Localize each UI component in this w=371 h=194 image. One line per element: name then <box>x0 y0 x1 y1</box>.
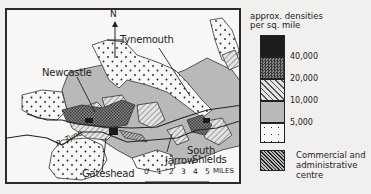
density-area-over-40000-b <box>109 128 118 135</box>
legend-swatch-over-40000 <box>260 35 285 57</box>
legend-value-10000: 10,000 <box>290 96 318 105</box>
legend-swatch-10000-20000 <box>260 79 285 101</box>
density-area-under-5000-west <box>22 90 67 120</box>
density-area-over-40000-a <box>85 118 93 123</box>
legend-value-40000: 40,000 <box>290 52 318 61</box>
legend-value-5000: 5,000 <box>290 118 313 127</box>
legend-swatch-commercial <box>260 150 285 171</box>
density-map-figure: N Tynemouth Newcastle South Shields Jarr… <box>0 0 371 194</box>
legend-title-line2: per sq. mile <box>250 21 323 30</box>
label-shields: Shields <box>192 154 227 165</box>
legend: approx. densities per sq. mile 40,000 20… <box>250 12 370 187</box>
legend-value-20000: 20,000 <box>290 74 318 83</box>
legend-swatch-under-5000 <box>260 123 285 143</box>
legend-commercial-line2: administrative centre <box>296 160 371 180</box>
label-jarrow: Jarrow <box>165 155 195 166</box>
scale-unit: MILES <box>213 167 234 175</box>
scale-tick-4: 4 <box>193 167 198 176</box>
legend-swatch-5000-10000 <box>260 101 285 123</box>
legend-title: approx. densities per sq. mile <box>250 12 323 30</box>
scale-tick-2: 2 <box>169 167 174 176</box>
label-newcastle: Newcastle <box>42 67 92 78</box>
scale-tick-1: 1 <box>157 167 162 176</box>
legend-commercial-line1: Commercial and <box>296 150 371 160</box>
map-frame: N Tynemouth Newcastle South Shields Jarr… <box>5 8 241 184</box>
north-arrow-icon <box>112 21 118 27</box>
legend-swatch-20000-40000 <box>260 57 285 79</box>
label-tynemouth: Tynemouth <box>120 34 174 45</box>
density-area-over-40000-c <box>203 118 210 123</box>
label-gateshead: Gateshead <box>82 168 134 179</box>
scale-tick-3: 3 <box>181 167 186 176</box>
legend-commercial-label: Commercial and administrative centre <box>296 150 371 180</box>
scale-tick-0: 0 <box>144 167 149 176</box>
scale-tick-5: 5 <box>205 167 210 176</box>
north-label: N <box>110 9 117 19</box>
